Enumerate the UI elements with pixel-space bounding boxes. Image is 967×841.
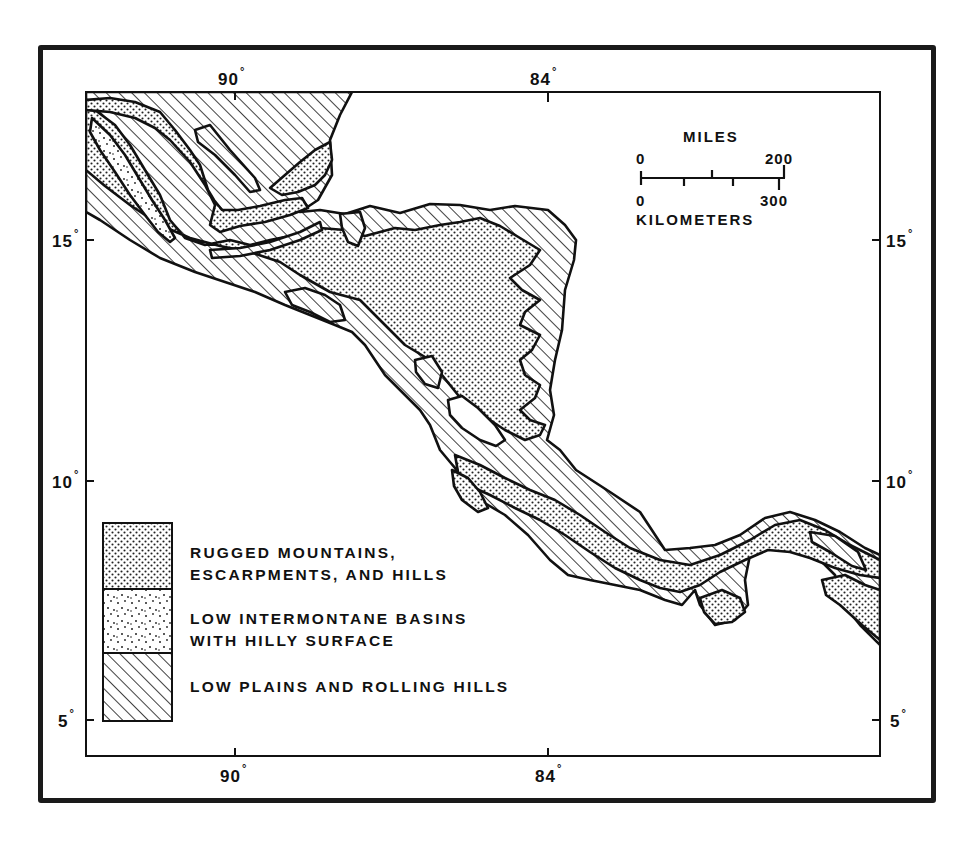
scale-title-kilometers: KILOMETERS — [636, 211, 754, 228]
longitude-label-top-84: 84° — [530, 68, 557, 90]
scale-km-start: 0 — [636, 192, 645, 209]
latitude-label-right-5: 5° — [890, 710, 907, 732]
scale-title-miles: MILES — [683, 128, 739, 145]
latitude-label-left-15: 15° — [52, 230, 79, 252]
longitude-label-bottom-84: 84° — [535, 765, 562, 787]
longitude-label-bottom-90: 90° — [220, 765, 247, 787]
legend-swatch-low-plains — [103, 653, 172, 721]
legend-swatch-intermontane-basins — [103, 589, 172, 653]
latitude-label-left-10: 10° — [52, 471, 79, 493]
legend-swatches — [102, 522, 174, 724]
legend-label-rugged-mountains: RUGGED MOUNTAINS, ESCARPMENTS, AND HILLS — [190, 542, 448, 586]
scale-km-end: 300 — [760, 192, 788, 209]
legend-label-low-plains: LOW PLAINS AND ROLLING HILLS — [190, 676, 509, 698]
legend-label-intermontane-basins: LOW INTERMONTANE BASINS WITH HILLY SURFA… — [190, 608, 468, 652]
scale-miles-start: 0 — [636, 150, 645, 167]
scale-bar-graphic — [641, 165, 785, 190]
scale-miles-end: 200 — [765, 150, 793, 167]
latitude-label-right-15: 15° — [886, 230, 913, 252]
legend-swatch-rugged-mountains — [103, 523, 172, 589]
longitude-label-top-90: 90° — [218, 68, 245, 90]
latitude-label-left-5: 5° — [58, 710, 75, 732]
latitude-label-right-10: 10° — [886, 471, 913, 493]
